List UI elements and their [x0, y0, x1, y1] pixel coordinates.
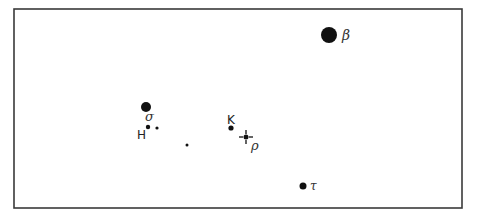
label-sigma: σ [145, 109, 155, 124]
star-beta [321, 27, 337, 43]
label-h: H [137, 128, 146, 142]
label-rho: ρ [250, 138, 259, 153]
star-h-companion [155, 126, 158, 129]
star-tau [300, 183, 307, 190]
star-chart: β σ H K ρ τ [0, 0, 479, 211]
star-unlabeled [186, 144, 189, 147]
label-tau: τ [310, 179, 317, 193]
label-beta: β [341, 27, 350, 43]
star-rho [244, 135, 249, 140]
label-k: K [227, 113, 236, 127]
chart-frame [14, 9, 462, 208]
star-h [146, 125, 150, 129]
